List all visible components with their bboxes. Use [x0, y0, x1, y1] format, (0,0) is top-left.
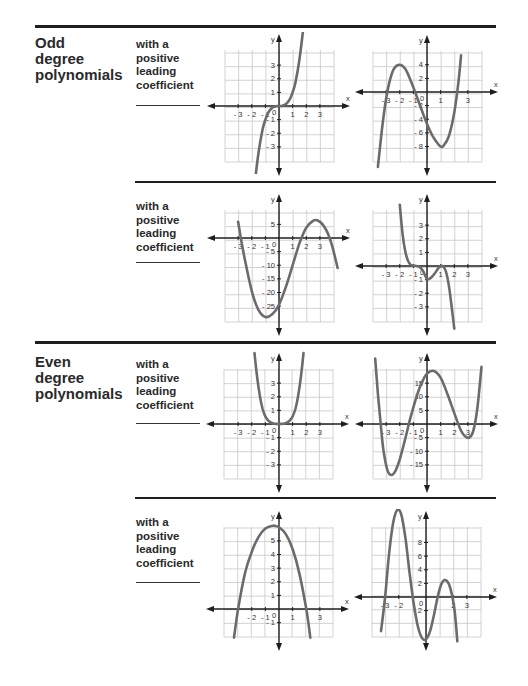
svg-text:3: 3	[465, 601, 469, 610]
arrow-right-icon	[489, 594, 497, 600]
arrow-left-icon	[354, 594, 362, 600]
svg-text:4: 4	[418, 565, 422, 574]
polynomial-curve	[381, 509, 457, 641]
svg-text:8: 8	[418, 538, 422, 547]
svg-text:- 2: - 2	[394, 601, 403, 610]
arrow-up-icon	[423, 511, 429, 519]
svg-text:2: 2	[418, 579, 422, 588]
axes	[354, 511, 497, 651]
arrow-down-icon	[423, 643, 429, 651]
svg-text:6: 6	[418, 552, 422, 561]
svg-text:y: y	[418, 512, 422, 521]
svg-text:x: x	[493, 585, 497, 594]
